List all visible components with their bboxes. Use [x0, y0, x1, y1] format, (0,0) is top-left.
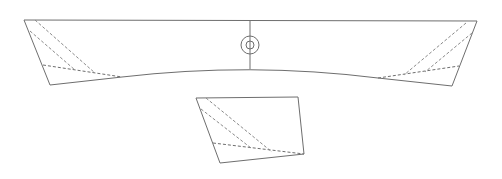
- main-bottom-curve: [122, 70, 378, 78]
- right-dashed-line: [404, 23, 466, 75]
- left-dashed-line: [30, 31, 75, 70]
- fold-diagram: [0, 0, 502, 179]
- main-shape: [24, 20, 477, 86]
- detail-fold-line: [213, 143, 304, 154]
- detail-shape: [196, 97, 304, 163]
- detail-shape-outline: [196, 97, 304, 163]
- left-fold-line: [43, 65, 122, 77]
- right-fold-line: [378, 66, 459, 78]
- detail-dashed-line: [206, 98, 272, 152]
